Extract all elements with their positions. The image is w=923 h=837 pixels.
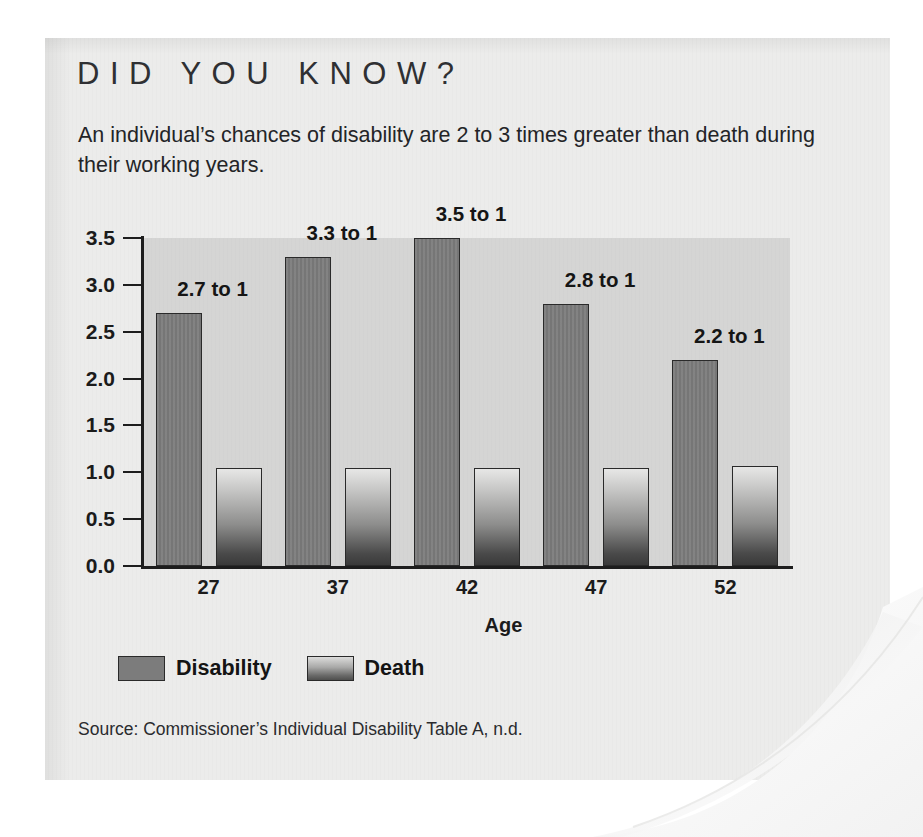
y-axis-tick-label: 3.5 [45, 226, 115, 250]
bar-death-47 [603, 468, 649, 566]
chart-legend: Disability Death [118, 656, 424, 681]
x-axis-line [141, 566, 793, 569]
y-axis-tick-label: 0.0 [45, 554, 115, 578]
x-axis-label-27: 27 [197, 576, 219, 599]
bar-disability-27 [156, 313, 202, 566]
y-axis-tick [123, 378, 142, 380]
y-axis-tick [123, 331, 142, 333]
bar-death-42 [474, 468, 520, 566]
x-axis-label-42: 42 [456, 576, 478, 599]
bar-death-52 [732, 466, 778, 566]
y-axis-tick [123, 518, 142, 520]
y-axis-tick [123, 471, 142, 473]
y-axis-tick-label: 0.5 [45, 507, 115, 531]
bar-value-label: 2.7 to 1 [177, 277, 248, 301]
y-axis-tick [123, 237, 142, 239]
legend-item-death: Death [307, 656, 425, 681]
y-axis-tick [123, 284, 142, 286]
legend-label-death: Death [365, 656, 425, 681]
bar-disability-47 [543, 304, 589, 566]
bar-disability-42 [414, 238, 460, 566]
y-axis-tick [123, 565, 142, 567]
y-axis-tick [123, 424, 142, 426]
subtitle-text: An individual’s chances of disability ar… [78, 120, 838, 180]
legend-swatch-disability [118, 656, 165, 681]
legend-label-disability: Disability [176, 656, 272, 681]
bar-value-label: 2.8 to 1 [565, 268, 636, 292]
y-axis-tick-label: 3.0 [45, 273, 115, 297]
bar-disability-37 [285, 257, 331, 566]
x-axis-label-47: 47 [585, 576, 607, 599]
bar-value-label: 3.3 to 1 [306, 221, 377, 245]
page-background: DID YOU KNOW? An individual’s chances of… [0, 0, 923, 837]
x-axis-title: Age [81, 614, 923, 637]
y-axis-tick-label: 1.5 [45, 413, 115, 437]
bar-value-label: 3.5 to 1 [436, 202, 507, 226]
bar-value-label: 2.2 to 1 [694, 324, 765, 348]
bar-death-27 [216, 468, 262, 566]
page-title: DID YOU KNOW? [77, 56, 464, 92]
y-axis-tick-label: 1.0 [45, 460, 115, 484]
legend-item-disability: Disability [118, 656, 272, 681]
bar-death-37 [345, 468, 391, 566]
bar-disability-52 [672, 360, 718, 566]
bar-chart: 0.00.51.01.52.02.53.03.5 2.7 to 13.3 to … [45, 190, 890, 660]
source-citation: Source: Commissioner’s Individual Disabi… [78, 719, 523, 740]
x-axis-label-52: 52 [714, 576, 736, 599]
y-axis-tick-label: 2.5 [45, 320, 115, 344]
y-axis-tick-label: 2.0 [45, 367, 115, 391]
x-axis-label-37: 37 [327, 576, 349, 599]
legend-swatch-death [307, 656, 354, 681]
